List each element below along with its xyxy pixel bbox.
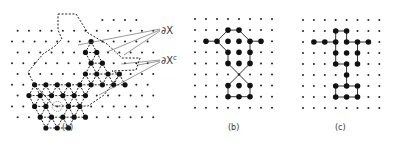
occupied-site	[94, 50, 99, 55]
lattice-site	[51, 51, 53, 53]
lattice-site	[141, 30, 143, 32]
lattice-site	[335, 107, 337, 109]
lattice-site	[216, 18, 218, 20]
lattice-site	[96, 116, 98, 118]
lattice-site	[130, 30, 132, 32]
lattice-site	[260, 18, 262, 20]
occupied-site	[60, 115, 65, 120]
lattice-site	[17, 30, 19, 32]
lattice-site	[113, 105, 115, 107]
lattice-site	[378, 85, 380, 87]
lattice-site	[378, 30, 380, 32]
lattice-site	[367, 52, 369, 54]
occupied-site	[55, 82, 60, 87]
lattice-site	[324, 30, 326, 32]
occupied-site	[247, 94, 253, 100]
lattice-site	[147, 41, 149, 43]
occupied-site	[355, 83, 361, 89]
lattice-site	[249, 107, 251, 109]
lattice-site	[45, 41, 47, 43]
lattice-site	[313, 85, 315, 87]
boundary-label: ∂X	[161, 25, 173, 36]
occupied-site	[355, 61, 361, 67]
occupied-site	[203, 38, 209, 44]
occupied-site	[105, 71, 110, 76]
lattice-site	[194, 51, 196, 53]
lattice-site	[205, 29, 207, 31]
lattice-site	[194, 74, 196, 76]
lattice-site	[260, 51, 262, 53]
lattice-site	[216, 51, 218, 53]
lattice-site	[216, 85, 218, 87]
occupied-site	[77, 82, 82, 87]
lattice-site	[152, 51, 154, 53]
lattice-site	[302, 107, 304, 109]
lattice-site	[141, 95, 143, 97]
lattice-site	[357, 19, 359, 21]
lattice-site	[107, 95, 109, 97]
lattice-site	[45, 62, 47, 64]
lattice-site	[302, 74, 304, 76]
occupied-site	[258, 38, 264, 44]
occupied-site	[214, 38, 220, 44]
lattice-site	[194, 62, 196, 64]
occupied-site	[344, 39, 350, 45]
lattice-site	[335, 74, 337, 76]
lattice-site	[11, 105, 13, 107]
lattice-site	[96, 95, 98, 97]
lattice-site	[11, 62, 13, 64]
panel-c-square-lattice	[302, 19, 380, 109]
occupied-site	[83, 50, 88, 55]
lattice-site	[367, 96, 369, 98]
lattice-site	[216, 29, 218, 31]
lattice-site	[302, 85, 304, 87]
crossing-site	[238, 73, 240, 75]
lattice-site	[118, 30, 120, 32]
lattice-site	[113, 19, 115, 21]
panel-b-square-lattice	[194, 18, 273, 109]
lattice-site	[22, 62, 24, 64]
lattice-site	[147, 105, 149, 107]
lattice-site	[324, 19, 326, 21]
lattice-site	[56, 41, 58, 43]
lattice-site	[313, 107, 315, 109]
lattice-site	[367, 85, 369, 87]
occupied-site	[72, 93, 77, 98]
occupied-site	[43, 104, 48, 109]
occupied-site	[355, 39, 361, 45]
lattice-site	[324, 52, 326, 54]
caption-c: (c)	[335, 123, 346, 132]
lattice-site	[313, 19, 315, 21]
lattice-site	[130, 73, 132, 75]
lattice-site	[260, 96, 262, 98]
lattice-site	[302, 52, 304, 54]
occupied-site	[333, 28, 339, 34]
lattice-site	[56, 62, 58, 64]
lattice-site	[118, 51, 120, 53]
occupied-site	[344, 83, 350, 89]
lattice-site	[113, 62, 115, 64]
occupied-site	[32, 104, 37, 109]
lattice-site	[73, 30, 75, 32]
lattice-site	[271, 18, 273, 20]
lattice-site	[216, 74, 218, 76]
lattice-site	[135, 41, 137, 43]
lattice-site	[367, 107, 369, 109]
lattice-site	[227, 18, 229, 20]
lattice-site	[194, 40, 196, 42]
lattice-site	[367, 74, 369, 76]
lattice-site	[73, 73, 75, 75]
lattice-site	[124, 41, 126, 43]
lattice-site	[130, 95, 132, 97]
lattice-site	[271, 96, 273, 98]
occupied-site	[236, 50, 242, 56]
occupied-site	[236, 94, 242, 100]
lattice-site	[90, 105, 92, 107]
lattice-site	[378, 41, 380, 43]
lattice-site	[205, 51, 207, 53]
lattice-site	[378, 96, 380, 98]
lattice-site	[96, 30, 98, 32]
caption-a: (a)	[62, 123, 73, 132]
lattice-site	[62, 73, 64, 75]
occupied-site	[322, 39, 328, 45]
